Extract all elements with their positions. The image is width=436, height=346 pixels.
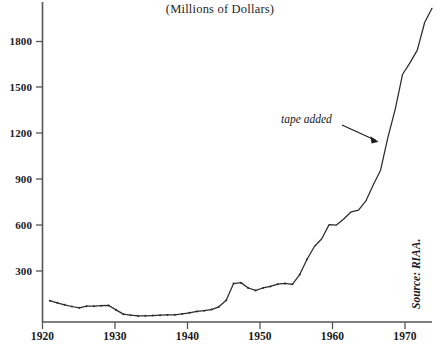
source-note: Source: RIAA.: [410, 213, 422, 309]
data-point: [269, 285, 271, 287]
data-point: [174, 314, 176, 316]
tape-added-annotation: tape added: [281, 113, 332, 125]
x-axis-label-1930: 1930: [92, 330, 138, 342]
annotation-arrowhead: [371, 136, 379, 143]
data-point: [203, 310, 205, 312]
data-point: [233, 283, 235, 285]
data-point: [108, 304, 110, 306]
data-point: [188, 312, 190, 314]
y-axis-label-300: 300: [0, 265, 32, 277]
data-point: [78, 307, 80, 309]
data-point: [64, 304, 66, 306]
x-axis-label-1960: 1960: [310, 330, 356, 342]
data-point: [299, 274, 301, 276]
x-axis-label-1920: 1920: [20, 330, 66, 342]
data-point: [218, 306, 220, 308]
data-point: [49, 300, 51, 302]
chart-figure: (Millions of Dollars) 1800 1500 1200 900…: [0, 0, 436, 346]
y-axis-label-1800: 1800: [0, 35, 32, 47]
data-point: [152, 315, 154, 317]
y-axis-ticks: [36, 42, 43, 272]
data-point: [137, 315, 139, 317]
data-point: [115, 309, 117, 311]
data-series-line: [50, 8, 432, 316]
data-point: [277, 283, 279, 285]
y-axis-label-900: 900: [0, 173, 32, 185]
data-point: [159, 314, 161, 316]
x-axis-ticks: [43, 322, 406, 329]
x-axis-label-1970: 1970: [382, 330, 428, 342]
data-point: [181, 313, 183, 315]
data-point: [86, 305, 88, 307]
y-axis-label-1200: 1200: [0, 127, 32, 139]
data-point: [291, 283, 293, 285]
data-point-markers: [49, 258, 308, 317]
data-point: [262, 287, 264, 289]
data-point: [196, 310, 198, 312]
data-point: [56, 302, 58, 304]
chart-title: (Millions of Dollars): [130, 2, 310, 17]
data-point: [122, 313, 124, 315]
data-point: [130, 314, 132, 316]
data-point: [144, 315, 146, 317]
data-point: [306, 258, 308, 260]
data-point: [247, 287, 249, 289]
data-point: [100, 305, 102, 307]
tape-added-arrow: [342, 125, 379, 143]
data-point: [255, 289, 257, 291]
data-point: [93, 305, 95, 307]
y-axis-label-1500: 1500: [0, 81, 32, 93]
y-axis-label-600: 600: [0, 219, 32, 231]
x-axis-label-1950: 1950: [237, 330, 283, 342]
x-axis-label-1940: 1940: [165, 330, 211, 342]
data-point: [284, 282, 286, 284]
data-point: [225, 299, 227, 301]
line-chart-canvas: [0, 0, 436, 346]
data-point: [71, 306, 73, 308]
data-point: [240, 282, 242, 284]
data-point: [211, 309, 213, 311]
data-point: [166, 314, 168, 316]
